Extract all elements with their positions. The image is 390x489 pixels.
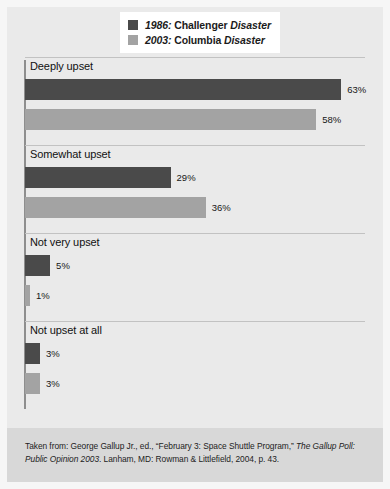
bar-0-1 xyxy=(25,109,316,130)
bar-1-0 xyxy=(25,167,171,188)
legend-swatch-icon-1986 xyxy=(128,20,138,30)
bar-value-0-0: 63% xyxy=(347,84,366,95)
legend-emphasis-1986: Disaster xyxy=(230,19,271,31)
bar-value-2-1: 1% xyxy=(36,290,50,301)
bar-value-0-1: 58% xyxy=(322,114,341,125)
legend-event-2003: Columbia xyxy=(171,34,224,46)
legend-emphasis-2003: Disaster xyxy=(224,34,265,46)
bar-group-not-very-upset: Not very upset 5% 1% xyxy=(17,233,369,321)
chart-figure: 1986: Challenger Disaster 2003: Columbia… xyxy=(0,0,390,489)
legend-item-2003: 2003: Columbia Disaster xyxy=(128,32,271,47)
group-separator xyxy=(25,57,365,58)
legend-label-1986: 1986: Challenger Disaster xyxy=(145,19,271,31)
bar-2-0 xyxy=(25,255,50,276)
source-suffix: . Lanham, MD: Rowman & Littlefield, 2004… xyxy=(99,454,279,464)
bar-value-1-1: 36% xyxy=(212,202,231,213)
bar-3-1 xyxy=(25,373,40,394)
bar-value-3-0: 3% xyxy=(46,348,60,359)
chart-legend: 1986: Challenger Disaster 2003: Columbia… xyxy=(120,12,280,53)
bar-3-0 xyxy=(25,343,40,364)
group-separator xyxy=(25,233,365,234)
legend-item-1986: 1986: Challenger Disaster xyxy=(128,17,271,32)
bar-value-1-0: 29% xyxy=(177,172,196,183)
bar-group-not-upset-at-all: Not upset at all 3% 3% xyxy=(17,321,369,409)
legend-year-1986: 1986: xyxy=(145,19,171,31)
group-separator xyxy=(25,145,365,146)
legend-swatch-icon-2003 xyxy=(128,35,138,45)
group-label-1: Somewhat upset xyxy=(30,148,111,160)
plot-area: Deeply upset 63% 58% Somewhat upset 29% … xyxy=(17,57,369,409)
bar-1-1 xyxy=(25,197,206,218)
source-prefix: Taken from: George Gallup Jr., ed., “Feb… xyxy=(25,441,296,451)
legend-label-2003: 2003: Columbia Disaster xyxy=(145,34,265,46)
bar-2-1 xyxy=(25,285,30,306)
bar-0-0 xyxy=(25,79,341,100)
source-band: Taken from: George Gallup Jr., ed., “Feb… xyxy=(7,428,383,482)
group-label-0: Deeply upset xyxy=(30,60,93,72)
group-separator xyxy=(25,321,365,322)
source-citation: Taken from: George Gallup Jr., ed., “Feb… xyxy=(25,440,369,465)
bar-group-deeply-upset: Deeply upset 63% 58% xyxy=(17,57,369,145)
bar-value-3-1: 3% xyxy=(46,378,60,389)
legend-event-1986: Challenger xyxy=(171,19,230,31)
bar-value-2-0: 5% xyxy=(56,260,70,271)
group-label-3: Not upset at all xyxy=(30,324,102,336)
bar-group-somewhat-upset: Somewhat upset 29% 36% xyxy=(17,145,369,233)
legend-year-2003: 2003: xyxy=(145,34,171,46)
group-label-2: Not very upset xyxy=(30,236,100,248)
